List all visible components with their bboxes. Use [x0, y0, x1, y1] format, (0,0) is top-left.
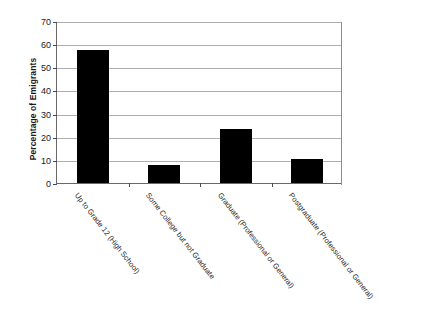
bar — [220, 129, 252, 183]
y-axis-tick-label: 10 — [41, 156, 51, 166]
y-axis-tick-label: 40 — [41, 86, 51, 96]
x-axis-tick — [129, 183, 130, 187]
x-axis-tick — [200, 183, 201, 187]
y-axis-tick — [53, 68, 57, 69]
x-axis-tick — [272, 183, 273, 187]
y-axis-tick — [53, 115, 57, 116]
x-axis-category-label: Up to Grade 12 (High School) — [73, 191, 142, 275]
y-axis-tick-label: 70 — [41, 17, 51, 27]
gridline — [57, 45, 342, 46]
x-axis-category-label: Postgraduate (Professional or General) — [287, 191, 375, 301]
y-axis-tick — [53, 45, 57, 46]
y-axis-tick-label: 30 — [41, 110, 51, 120]
y-axis-tick-label: 0 — [46, 179, 51, 189]
gridline — [57, 22, 342, 23]
y-axis-title: Percentage of Emigrants — [28, 24, 38, 194]
x-axis-category-label: Graduate (Professional or General) — [216, 191, 296, 290]
y-axis-tick — [53, 161, 57, 162]
y-axis-tick — [53, 184, 57, 185]
bar — [148, 165, 180, 184]
figure: Percentage of Emigrants 010203040506070 … — [0, 0, 434, 324]
plot-right-edge — [341, 22, 342, 185]
y-axis-tick-label: 60 — [41, 40, 51, 50]
y-axis-tick-label: 20 — [41, 133, 51, 143]
bar — [291, 159, 323, 183]
y-axis-tick — [53, 138, 57, 139]
y-axis-tick-label: 50 — [41, 63, 51, 73]
y-axis-tick — [53, 91, 57, 92]
bar — [77, 50, 109, 183]
plot-area: 010203040506070 — [56, 22, 342, 184]
y-axis-tick — [53, 22, 57, 23]
x-axis-category-label: Some College but not Graduate — [144, 191, 217, 281]
